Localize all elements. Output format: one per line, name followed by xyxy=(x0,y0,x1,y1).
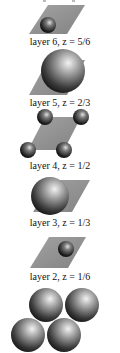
title-fragment xyxy=(43,0,75,2)
atom-sphere xyxy=(65,288,99,322)
atom-sphere xyxy=(37,109,53,125)
layer-3-label: layer 3, z = 1/3 xyxy=(0,217,120,228)
unit-cell-plane xyxy=(28,117,81,150)
layer-4-label: layer 4, z = 1/2 xyxy=(0,160,120,171)
atom-sphere xyxy=(56,142,72,158)
layer-5-cell xyxy=(29,49,85,95)
atom-sphere xyxy=(58,241,74,257)
layer-2-cell xyxy=(30,237,86,268)
atom-sphere xyxy=(20,142,36,158)
unit-cell-plane xyxy=(30,237,86,268)
atom-sphere xyxy=(40,17,56,33)
layer-6-cell xyxy=(29,5,85,34)
layer-2-label: layer 2, z = 1/6 xyxy=(0,271,120,282)
layer-4-cell xyxy=(20,109,89,158)
layer-6-label: layer 6, z = 5/6 xyxy=(0,36,120,47)
atom-sphere xyxy=(41,49,85,93)
atom-sphere xyxy=(73,109,89,125)
layer-3-cell xyxy=(31,177,90,215)
layer-stack-diagram xyxy=(0,0,120,353)
layer-5-label: layer 5, z = 2/3 xyxy=(0,97,120,108)
atom-sphere xyxy=(47,318,81,352)
bottom-layer-spheres xyxy=(11,288,99,352)
atom-sphere xyxy=(11,318,45,352)
unit-cell-plane xyxy=(29,5,85,34)
atom-sphere xyxy=(31,177,69,215)
atom-sphere xyxy=(29,288,63,322)
